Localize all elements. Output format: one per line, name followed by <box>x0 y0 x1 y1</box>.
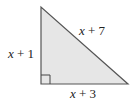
hypotenuse-label: x + 7 <box>78 23 106 38</box>
triangle-diagram: x + 1 x + 3 x + 7 <box>0 0 132 102</box>
vertical-leg-label: x + 1 <box>7 46 34 61</box>
right-triangle <box>41 7 128 84</box>
horizontal-leg-label: x + 3 <box>69 86 96 101</box>
